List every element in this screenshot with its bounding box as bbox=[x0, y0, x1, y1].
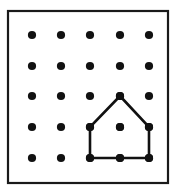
pentagon-interior-dot-0 bbox=[116, 123, 124, 131]
grid-dot-r2-c4 bbox=[145, 92, 153, 100]
pentagon-vertex-right-shoulder bbox=[145, 123, 153, 131]
grid-dot-r0-c2 bbox=[86, 31, 94, 39]
grid-dot-r4-c1 bbox=[57, 154, 65, 162]
pentagon-vertex-bottom-right bbox=[145, 154, 153, 162]
grid-dot-r0-c1 bbox=[57, 31, 65, 39]
geoboard-canvas bbox=[0, 0, 176, 194]
grid-dot-r3-c1 bbox=[57, 123, 65, 131]
grid-dot-r2-c2 bbox=[86, 92, 94, 100]
grid-dot-r1-c2 bbox=[86, 62, 94, 70]
grid-dot-r0-c4 bbox=[145, 31, 153, 39]
pentagon-vertex-bottom-left bbox=[86, 154, 94, 162]
grid-dot-r1-c4 bbox=[145, 62, 153, 70]
grid-dot-r4-c0 bbox=[28, 154, 36, 162]
grid-dot-r0-c3 bbox=[116, 31, 124, 39]
pentagon-interior-dot-1 bbox=[116, 154, 124, 162]
grid-dot-r3-c0 bbox=[28, 123, 36, 131]
pentagon-vertex-apex bbox=[116, 92, 124, 100]
grid-dot-r1-c0 bbox=[28, 62, 36, 70]
pentagon-vertex-left-shoulder bbox=[86, 123, 94, 131]
grid-dot-r2-c0 bbox=[28, 92, 36, 100]
grid-dot-r2-c1 bbox=[57, 92, 65, 100]
grid-dot-r1-c1 bbox=[57, 62, 65, 70]
geoboard-figure bbox=[0, 0, 176, 194]
grid-dot-r1-c3 bbox=[116, 62, 124, 70]
grid-dot-r0-c0 bbox=[28, 31, 36, 39]
